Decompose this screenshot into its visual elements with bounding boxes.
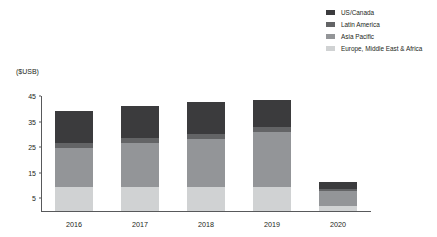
- bar-2017[interactable]: [121, 106, 159, 211]
- x-axis-tick-label: 2017: [121, 220, 159, 229]
- y-axis-tick-label: 25: [28, 144, 36, 151]
- legend-item[interactable]: US/Canada: [326, 8, 422, 17]
- bar-segment: [187, 102, 225, 134]
- legend-item[interactable]: Latin America: [326, 20, 422, 29]
- bar-segment: [121, 106, 159, 138]
- bar-segment: [319, 206, 357, 211]
- legend-swatch-icon: [326, 34, 335, 39]
- legend-item-label: US/Canada: [341, 8, 374, 17]
- y-axis-tick-label: 35: [28, 118, 36, 125]
- legend-item-label: Asia Pacific: [341, 32, 374, 41]
- y-axis-tick-mark: [39, 198, 42, 199]
- y-axis-tick-mark: [39, 121, 42, 122]
- legend-item-label: Latin America: [341, 20, 380, 29]
- y-axis-tick-label: 5: [32, 195, 36, 202]
- bar-segment: [55, 148, 93, 186]
- bar-segment: [319, 182, 357, 190]
- bar-2019[interactable]: [253, 100, 291, 211]
- x-axis-tick-label: 2019: [253, 220, 291, 229]
- legend-item[interactable]: Asia Pacific: [326, 32, 422, 41]
- bar-2018[interactable]: [187, 102, 225, 211]
- bar-segment: [55, 111, 93, 143]
- bar-segment: [253, 100, 291, 127]
- x-axis-tick-label: 2020: [319, 220, 357, 229]
- bar-segment: [319, 191, 357, 206]
- y-axis-tick-mark: [39, 96, 42, 97]
- bar-segment: [121, 143, 159, 186]
- bar-2016[interactable]: [55, 111, 93, 211]
- chart-legend: US/CanadaLatin AmericaAsia PacificEurope…: [326, 8, 422, 53]
- legend-swatch-icon: [326, 10, 335, 15]
- legend-item-label: Europe, Middle East & Africa: [341, 44, 422, 53]
- bar-segment: [55, 187, 93, 211]
- y-axis-line: [41, 96, 42, 212]
- bar-segment: [253, 187, 291, 211]
- x-axis-tick-label: 2018: [187, 220, 225, 229]
- plot-area: 515253545 20162017201820192020: [41, 96, 371, 212]
- legend-swatch-icon: [326, 22, 335, 27]
- legend-swatch-icon: [326, 46, 335, 51]
- y-axis-tick-mark: [39, 147, 42, 148]
- bar-segment: [187, 187, 225, 211]
- y-axis-tick-label: 15: [28, 169, 36, 176]
- y-axis-tick-label: 45: [28, 93, 36, 100]
- legend-item[interactable]: Europe, Middle East & Africa: [326, 44, 422, 53]
- bar-2020[interactable]: [319, 182, 357, 211]
- y-axis-unit-label: ($USB): [16, 68, 39, 75]
- x-axis-line: [41, 211, 371, 212]
- x-axis-tick-label: 2016: [55, 220, 93, 229]
- bar-segment: [187, 139, 225, 186]
- y-axis-tick-mark: [39, 172, 42, 173]
- bar-segment: [121, 187, 159, 211]
- bar-segment: [253, 132, 291, 187]
